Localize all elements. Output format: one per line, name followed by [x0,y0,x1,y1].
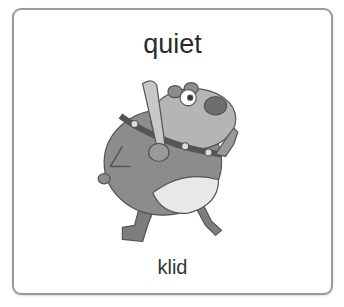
card-translation: klid [14,255,331,279]
card-word: quiet [14,28,331,60]
cartoon-bear-with-bat-icon [92,72,254,252]
flashcard[interactable]: quiet [12,8,333,295]
